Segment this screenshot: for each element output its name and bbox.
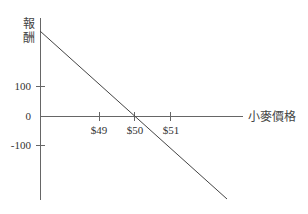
payoff-line	[40, 31, 227, 199]
y-axis-label-char-2: 酬	[23, 31, 35, 45]
y-tick-label: 0	[26, 110, 32, 122]
x-axis-label: 小麥價格	[248, 109, 296, 124]
y-axis-label-char-1: 報	[23, 17, 35, 31]
y-tick-label: -100	[11, 139, 32, 151]
x-tick-label: $50	[127, 124, 144, 136]
y-tick-label: 100	[15, 80, 32, 92]
x-tick-label: $51	[163, 124, 180, 136]
payoff-chart: 100 0 -100 $49 $50 $51 報 酬 小麥價格	[0, 0, 308, 214]
x-tick-label: $49	[91, 124, 108, 136]
